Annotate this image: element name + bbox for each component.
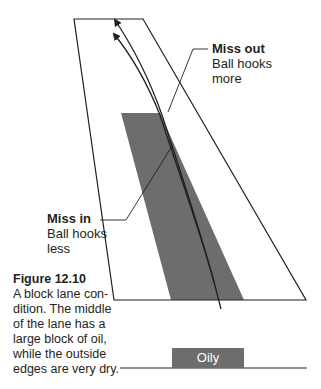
miss-in-line-1: Ball hooks <box>47 226 107 241</box>
caption-line-5: while the outside <box>13 347 119 362</box>
caption-line-6: edges are very dry. <box>13 362 119 377</box>
caption-line-1: A block lane con- <box>13 287 119 302</box>
miss-out-annotation: Miss out Ball hooks more <box>212 41 272 86</box>
miss-out-line-1: Ball hooks <box>212 56 272 71</box>
figure-caption: Figure 12.10 A block lane con- dition. T… <box>13 272 119 377</box>
miss-in-annotation: Miss in Ball hooks less <box>47 211 107 256</box>
leader-line-miss-out <box>168 49 208 112</box>
miss-in-line-2: less <box>47 241 107 256</box>
caption-line-4: large block of oil, <box>13 332 119 347</box>
miss-in-title: Miss in <box>47 211 107 226</box>
caption-line-2: dition. The middle <box>13 302 119 317</box>
caption-line-3: of the lane has a <box>13 317 119 332</box>
miss-out-title: Miss out <box>212 41 272 56</box>
miss-out-line-2: more <box>212 71 272 86</box>
figure-title: Figure 12.10 <box>13 272 119 287</box>
oil-block <box>121 113 244 300</box>
legend-oily-swatch: Oily <box>172 348 244 368</box>
